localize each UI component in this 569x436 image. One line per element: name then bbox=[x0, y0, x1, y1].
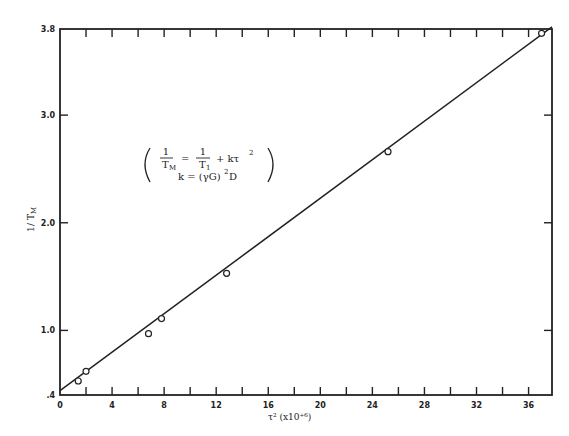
eq-k-tail: D bbox=[229, 171, 237, 182]
x-tick-label: 36 bbox=[523, 401, 535, 410]
x-axis-title: τ² (x10⁺⁶) bbox=[268, 412, 311, 422]
eq-rhs-den: T bbox=[199, 159, 206, 170]
eq-k-def: k = (γG) bbox=[178, 171, 221, 182]
eq-sup: 2 bbox=[249, 149, 253, 157]
eq-lhs-sub: M bbox=[169, 164, 176, 172]
open-circle-marker bbox=[539, 30, 545, 36]
svg-text:M: M bbox=[30, 207, 38, 214]
open-circle-marker bbox=[224, 270, 230, 276]
data-points bbox=[75, 30, 544, 384]
x-tick-label: 4 bbox=[109, 401, 115, 410]
open-circle-marker bbox=[159, 316, 165, 322]
plot-frame bbox=[60, 29, 552, 395]
open-circle-marker bbox=[75, 378, 81, 384]
eq-lhs-den: T bbox=[162, 159, 169, 170]
y-tick-label: .4 bbox=[46, 391, 55, 400]
x-tick-label: 0 bbox=[57, 401, 63, 410]
eq-rhs-num: 1 bbox=[200, 146, 206, 157]
eq-lhs-num: 1 bbox=[163, 146, 169, 157]
svg-text:1: 1 bbox=[26, 226, 36, 232]
y-tick-label: 1.0 bbox=[41, 326, 56, 335]
x-axis-ticks: 04812162024283236 bbox=[57, 29, 534, 410]
eq-equals: = bbox=[181, 153, 189, 164]
x-tick-label: 16 bbox=[263, 401, 275, 410]
eq-plus-term: + kτ bbox=[216, 153, 240, 164]
fit-line bbox=[60, 27, 552, 391]
y-tick-label: 2.0 bbox=[41, 219, 56, 228]
open-circle-marker bbox=[146, 331, 152, 337]
svg-text:/: / bbox=[26, 222, 36, 226]
y-axis-title: 1 / T M bbox=[26, 207, 38, 232]
chart-canvas: 04812162024283236 .41.02.03.03.8 1 T M =… bbox=[0, 0, 569, 436]
open-circle-marker bbox=[83, 368, 89, 374]
x-tick-label: 12 bbox=[211, 401, 222, 410]
fit-line-path bbox=[60, 27, 552, 391]
eq-k-sup: 2 bbox=[224, 168, 228, 176]
x-tick-label: 28 bbox=[419, 401, 431, 410]
open-circle-marker bbox=[385, 149, 391, 155]
y-tick-label: 3.8 bbox=[41, 25, 56, 34]
x-tick-label: 8 bbox=[161, 401, 167, 410]
equation-annotation: 1 T M = 1 T 1 + kτ 2 k = (γG) 2 D bbox=[145, 146, 273, 182]
y-tick-label: 3.0 bbox=[41, 111, 56, 120]
y-axis-ticks: .41.02.03.03.8 bbox=[41, 25, 552, 400]
left-paren-icon bbox=[145, 148, 150, 182]
x-tick-label: 20 bbox=[315, 401, 327, 410]
x-tick-label: 24 bbox=[367, 401, 379, 410]
x-tick-label: 32 bbox=[471, 401, 482, 410]
right-paren-icon bbox=[268, 148, 273, 182]
